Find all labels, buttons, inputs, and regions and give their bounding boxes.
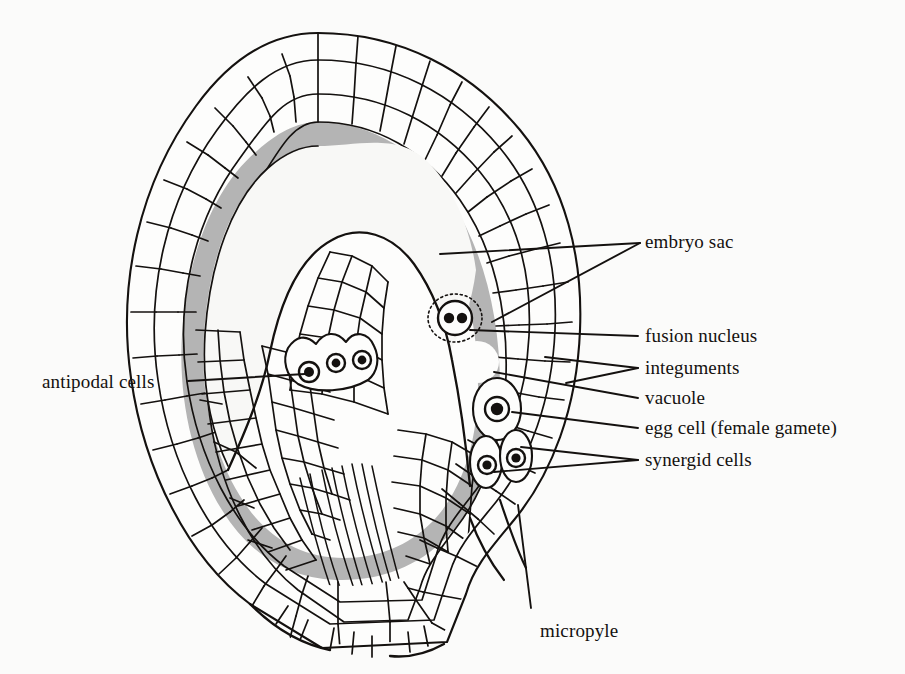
antipodal-cells — [285, 334, 377, 390]
label-antipodal-cells: antipodal cells — [42, 371, 155, 393]
ovule-illustration: .cw{fill:#fdfdfc;stroke:#14110f;stroke-w… — [0, 0, 905, 674]
label-integuments: integuments — [645, 357, 740, 379]
label-fusion-nucleus: fusion nucleus — [645, 325, 757, 347]
label-micropyle: micropyle — [540, 620, 618, 642]
label-vacuole: vacuole — [645, 387, 705, 409]
vacuole — [455, 341, 499, 383]
label-embryo-sac: embryo sac — [645, 231, 734, 253]
label-synergid-cells: synergid cells — [645, 449, 752, 471]
ovule-diagram: .cw{fill:#fdfdfc;stroke:#14110f;stroke-w… — [0, 0, 905, 674]
label-egg-cell: egg cell (female gamete) — [645, 417, 837, 439]
